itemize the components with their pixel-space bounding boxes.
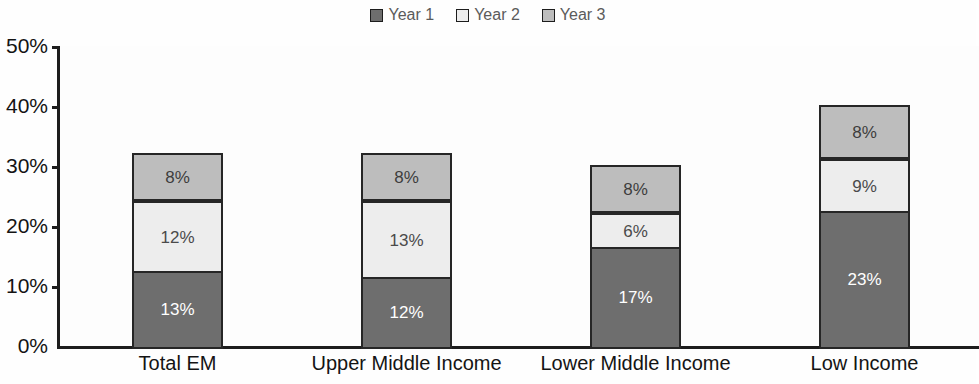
y-axis-tick-label: 0% bbox=[0, 334, 48, 358]
bars-layer: 8%12%13%8%13%12%8%6%17%8%9%23% bbox=[57, 46, 976, 346]
bar-segment-value-label: 23% bbox=[847, 271, 881, 288]
bar-segment-value-label: 8% bbox=[623, 181, 648, 198]
legend-label: Year 2 bbox=[474, 7, 520, 23]
x-axis-category-label: Total EM bbox=[139, 352, 217, 375]
bar-segment[interactable]: 8% bbox=[819, 105, 910, 159]
x-axis: Total EMUpper Middle IncomeLower Middle … bbox=[57, 352, 976, 384]
bar-segment-value-label: 12% bbox=[160, 229, 194, 246]
bar-stack[interactable]: 8%12%13% bbox=[132, 153, 223, 346]
y-axis-tick-label: 40% bbox=[0, 94, 48, 118]
legend-entry-1[interactable]: Year 1 bbox=[370, 7, 434, 23]
bar-segment[interactable]: 17% bbox=[590, 247, 681, 349]
y-axis-tick-label: 30% bbox=[0, 154, 48, 178]
legend-label: Year 3 bbox=[560, 7, 606, 23]
bar-segment-value-label: 13% bbox=[160, 301, 194, 318]
bar-stack[interactable]: 8%13%12% bbox=[361, 153, 452, 346]
bar-segment[interactable]: 9% bbox=[819, 159, 910, 213]
bar-stack[interactable]: 8%6%17% bbox=[590, 165, 681, 346]
legend-label: Year 1 bbox=[388, 7, 434, 23]
bar-segment[interactable]: 12% bbox=[361, 277, 452, 349]
y-axis-tick-label: 10% bbox=[0, 274, 48, 298]
legend-swatch-icon bbox=[542, 9, 555, 22]
bar-group: 8%9%23% bbox=[819, 46, 910, 346]
bar-segment[interactable]: 12% bbox=[132, 201, 223, 273]
bar-segment-value-label: 13% bbox=[389, 232, 423, 249]
legend-swatch-icon bbox=[456, 9, 469, 22]
bar-segment[interactable]: 23% bbox=[819, 211, 910, 349]
y-axis-tick-label: 50% bbox=[0, 34, 48, 58]
bar-segment-value-label: 17% bbox=[618, 289, 652, 306]
bar-segment-value-label: 8% bbox=[852, 124, 877, 141]
bar-segment-value-label: 9% bbox=[852, 178, 877, 195]
legend-entry-3[interactable]: Year 3 bbox=[542, 7, 606, 23]
legend-entry-2[interactable]: Year 2 bbox=[456, 7, 520, 23]
bar-segment[interactable]: 8% bbox=[590, 165, 681, 213]
bar-segment[interactable]: 8% bbox=[132, 153, 223, 201]
legend-swatch-icon bbox=[370, 9, 383, 22]
bar-stack[interactable]: 8%9%23% bbox=[819, 105, 910, 346]
y-axis-tick-label: 20% bbox=[0, 214, 48, 238]
bar-segment-value-label: 6% bbox=[623, 223, 648, 240]
chart-legend: Year 1Year 2Year 3 bbox=[0, 3, 976, 27]
bar-segment[interactable]: 8% bbox=[361, 153, 452, 201]
bar-group: 8%12%13% bbox=[132, 46, 223, 346]
bar-segment-value-label: 8% bbox=[394, 169, 419, 186]
bar-segment[interactable]: 13% bbox=[361, 201, 452, 279]
bar-segment-value-label: 12% bbox=[389, 304, 423, 321]
bar-segment[interactable]: 6% bbox=[590, 213, 681, 249]
x-axis-category-label: Upper Middle Income bbox=[311, 352, 501, 375]
x-axis-category-label: Low Income bbox=[811, 352, 919, 375]
bar-group: 8%13%12% bbox=[361, 46, 452, 346]
bar-segment[interactable]: 13% bbox=[132, 271, 223, 349]
bar-group: 8%6%17% bbox=[590, 46, 681, 346]
x-axis-category-label: Lower Middle Income bbox=[540, 352, 730, 375]
bar-segment-value-label: 8% bbox=[165, 169, 190, 186]
